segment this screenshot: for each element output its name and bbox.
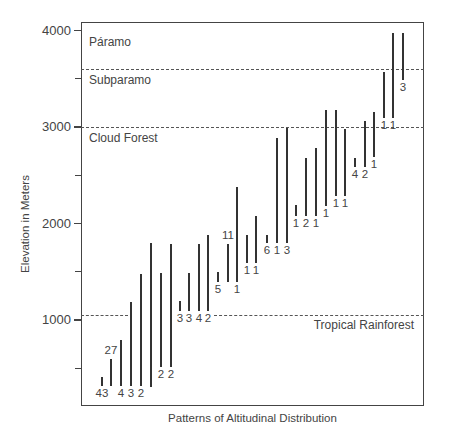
range-bar — [207, 235, 209, 311]
y-tick — [74, 126, 81, 127]
range-bar — [325, 110, 327, 207]
range-bar — [101, 377, 103, 386]
range-bar — [179, 301, 181, 312]
y-tick — [74, 319, 81, 320]
range-bar — [354, 158, 356, 167]
bar-count-label: 43 — [92, 387, 112, 399]
bar-count-label: 3 — [393, 81, 413, 93]
bar-count-label: 2 — [131, 387, 151, 399]
range-bar — [140, 274, 142, 386]
range-bar — [305, 158, 307, 216]
bar-count-label: 5 — [208, 283, 228, 295]
range-bar — [150, 243, 152, 387]
range-bar — [392, 33, 394, 118]
bar-count-label: 1 — [383, 119, 403, 131]
y-tick-label: 1000 — [21, 312, 71, 327]
y-tick — [74, 30, 81, 31]
range-bar — [227, 244, 229, 283]
bar-count-label: 1 — [364, 158, 384, 170]
range-bar — [266, 235, 268, 243]
range-bar — [255, 216, 257, 263]
zone-label: Tropical Rainforest — [314, 318, 414, 332]
bar-count-label: 2 — [161, 368, 181, 380]
range-bar — [246, 235, 248, 263]
range-bar — [217, 272, 219, 283]
bar-count-label: 1 — [227, 283, 247, 295]
range-bar — [198, 244, 200, 312]
bar-count-label: 1 — [246, 264, 266, 276]
y-tick-label: 3000 — [21, 119, 71, 134]
range-bar — [110, 359, 112, 386]
range-bar — [276, 138, 278, 243]
y-tick — [75, 175, 81, 176]
range-bar — [344, 129, 346, 196]
y-axis-label: Elevation in Meters — [19, 169, 31, 279]
bar-count-label: 3 — [277, 244, 297, 256]
y-tick — [75, 78, 81, 79]
bar-count-label: 1 — [335, 197, 355, 209]
range-bar — [188, 273, 190, 312]
range-bar — [295, 205, 297, 216]
zone-label: Páramo — [89, 35, 131, 49]
range-bar — [315, 148, 317, 216]
y-tick — [74, 223, 81, 224]
zone-boundary-line — [81, 315, 128, 316]
zone-boundary-line — [81, 69, 424, 70]
bar-count-label: 1 — [316, 207, 336, 219]
bar-count-label: 27 — [101, 344, 121, 356]
range-bar — [335, 110, 337, 196]
y-tick — [75, 368, 81, 369]
altitudinal-distribution-chart: 4000300020001000 PáramoSubparamoCloud Fo… — [0, 0, 449, 436]
range-bar — [402, 33, 404, 79]
range-bar — [170, 244, 172, 368]
y-tick — [75, 271, 81, 272]
range-bar — [130, 302, 132, 386]
y-tick-label: 4000 — [21, 23, 71, 38]
bar-count-label: 2 — [198, 312, 218, 324]
zone-boundary-line — [214, 315, 424, 316]
range-bar — [383, 72, 385, 118]
zone-label: Subparamo — [89, 73, 151, 87]
range-bar — [120, 340, 122, 385]
zone-label: Cloud Forest — [89, 131, 158, 145]
x-axis-label: Patterns of Altitudinal Distribution — [81, 412, 424, 424]
range-bar — [160, 273, 162, 368]
